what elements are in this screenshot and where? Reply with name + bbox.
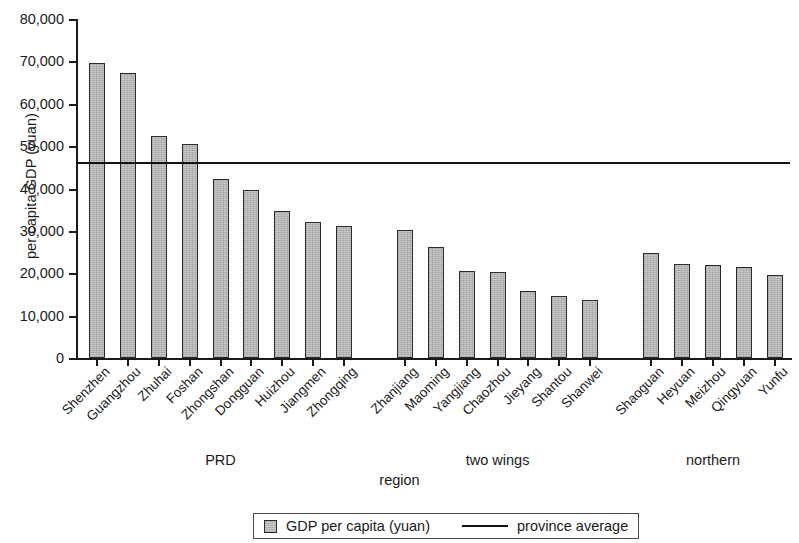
- y-axis-tick-mark: [69, 273, 76, 275]
- chart-legend: GDP per capita (yuan) province average: [253, 513, 639, 539]
- bar: [643, 253, 659, 359]
- x-axis-category-labels: ShenzhenGuangzhouZhuhaiFoshanZhongshanDo…: [76, 362, 792, 440]
- bar: [582, 300, 598, 358]
- bar: [274, 211, 290, 358]
- y-axis-tick-label: 40,000: [20, 181, 64, 197]
- y-axis-tick-mark: [69, 104, 76, 106]
- region-group-label: northern: [686, 452, 740, 468]
- x-axis-category-label: Yunfu: [755, 364, 790, 399]
- bar-chart: per capita GDP (yuan) 010,00020,00030,00…: [0, 0, 799, 543]
- bar: [520, 291, 536, 358]
- y-axis-tick-labels: 010,00020,00030,00040,00050,00060,00070,…: [0, 0, 72, 380]
- bar: [674, 264, 690, 358]
- region-group-label: two wings: [466, 452, 530, 468]
- y-axis-tick-mark: [69, 231, 76, 233]
- y-axis-tick-label: 0: [56, 350, 64, 366]
- legend-label-province-average: province average: [517, 518, 628, 534]
- bar: [459, 271, 475, 358]
- y-axis-tick-mark: [69, 358, 76, 360]
- bars-layer: [76, 19, 792, 358]
- legend-swatch-gdp-per-capita: [264, 520, 277, 533]
- legend-label-gdp-per-capita: GDP per capita (yuan): [286, 518, 430, 534]
- bar: [551, 296, 567, 358]
- bar: [767, 275, 783, 358]
- y-axis-tick-label: 10,000: [20, 308, 64, 324]
- y-axis-tick-mark: [69, 146, 76, 148]
- y-axis-tick-mark: [69, 61, 76, 63]
- y-axis-tick-label: 20,000: [20, 265, 64, 281]
- x-axis-title: region: [0, 472, 799, 488]
- y-axis-tick-label: 30,000: [20, 223, 64, 239]
- bar: [151, 136, 167, 358]
- bar: [305, 222, 321, 358]
- bar: [397, 230, 413, 358]
- bar: [243, 190, 259, 358]
- x-axis-line: [76, 358, 792, 360]
- bar: [736, 267, 752, 358]
- y-axis-tick-mark: [69, 19, 76, 21]
- bar: [89, 63, 105, 358]
- y-axis-tick-label: 70,000: [20, 53, 64, 69]
- bar: [428, 247, 444, 358]
- y-axis-tick-mark: [69, 189, 76, 191]
- bar: [705, 265, 721, 358]
- bar: [120, 73, 136, 358]
- bar: [182, 144, 198, 358]
- province-average-line: [76, 162, 790, 164]
- plot-area: [76, 19, 792, 360]
- legend-line-province-average: [462, 525, 508, 528]
- y-axis-tick-label: 80,000: [20, 11, 64, 27]
- bar: [490, 272, 506, 358]
- bar: [336, 226, 352, 358]
- bar: [213, 179, 229, 358]
- y-axis-tick-label: 60,000: [20, 96, 64, 112]
- y-axis-tick-mark: [69, 316, 76, 318]
- y-axis-tick-label: 50,000: [20, 138, 64, 154]
- region-group-label: PRD: [205, 452, 236, 468]
